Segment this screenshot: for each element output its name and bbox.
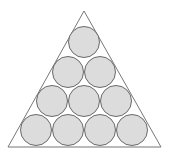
triangle-circle-packing-diagram — [0, 0, 174, 154]
circle-r1-c1 — [69, 27, 100, 58]
circle-r4-c2 — [53, 115, 84, 146]
circle-r2-c1 — [53, 57, 84, 88]
circle-r3-c2 — [69, 86, 100, 117]
circle-r4-c1 — [21, 115, 52, 146]
circle-r3-c3 — [101, 86, 132, 117]
circle-r4-c3 — [85, 115, 116, 146]
circle-r4-c4 — [117, 115, 148, 146]
circle-r3-c1 — [37, 86, 68, 117]
circle-r2-c2 — [85, 57, 116, 88]
